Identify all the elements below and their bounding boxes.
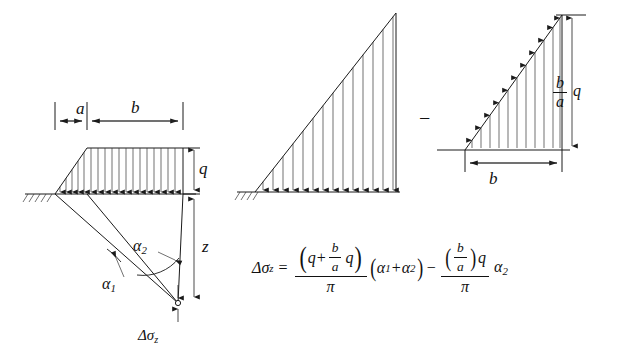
- eq-term1-q2: q: [343, 249, 353, 267]
- label-b-over-a-q: b a q: [551, 75, 581, 110]
- eq-term1-inner-fraction: b a: [329, 240, 342, 275]
- eq-trailing-alpha-sub: 2: [502, 266, 507, 278]
- eq-term1-inner-den-a: a: [329, 257, 342, 275]
- large-triangular-load-panel: [235, 13, 400, 200]
- dimension-q: [183, 148, 200, 190]
- point-o-marker: [175, 300, 180, 305]
- eq-minus-operator: −: [424, 259, 439, 277]
- label-delta-sigma-z: Δσz: [138, 328, 158, 345]
- ground-hatch-middle: [235, 192, 258, 200]
- eq-term2-inner-num-b: b: [454, 240, 467, 257]
- eq-term2-open-paren: (: [445, 250, 451, 265]
- z-subscript-label: z: [154, 334, 158, 345]
- dimension-b-right: [465, 150, 562, 172]
- label-depth-z: z: [202, 238, 209, 255]
- eq-alpha1-glyph: α: [377, 259, 385, 277]
- eq-term1-open-paren: (: [299, 248, 306, 267]
- eq-alpha2-glyph: α: [402, 259, 410, 277]
- small-triangle-outline: [465, 15, 562, 150]
- eq-term1-denominator-pi: π: [295, 276, 367, 296]
- eq-term2-close-paren: ): [470, 250, 476, 265]
- minus-operator-symbol: −: [419, 108, 430, 128]
- label-dim-b: b: [131, 99, 140, 116]
- eq-term2-denominator-pi: π: [441, 276, 489, 296]
- eq-alpha-plus: +: [391, 259, 402, 277]
- dimension-z: [183, 194, 200, 297]
- dimension-line-a-b: [55, 102, 183, 130]
- eq-term1-numerator: ( q + b a q ): [295, 240, 367, 276]
- figure-drawing: [0, 0, 619, 355]
- label-dim-b-right: b: [489, 170, 498, 187]
- large-triangle-outline: [255, 13, 396, 192]
- eq-term2-q: q: [477, 249, 486, 267]
- eq-alpha-sum-group: (α1+α2): [369, 259, 424, 277]
- eq-delta-glyph: Δ: [252, 259, 261, 277]
- stress-equation: Δσz = ( q + b a q ) π (α1+α2) − (: [252, 240, 508, 296]
- eq-term1-inner-num-b: b: [329, 240, 342, 257]
- q-glyph-right: q: [573, 82, 581, 99]
- load-arrows-trapezoid: [60, 148, 175, 192]
- eq-trailing-alpha2-group: α2: [491, 258, 508, 277]
- load-arrows-small-triangle: [472, 18, 560, 148]
- eq-term2-inner-den-a: a: [454, 257, 467, 275]
- eq-term1-close-paren: ): [355, 248, 362, 267]
- alpha1-subscript: 1: [110, 282, 115, 294]
- ground-hatch-left: [23, 194, 52, 202]
- eq-alpha-sum-open-paren: (: [370, 260, 376, 275]
- label-alpha1: α1: [102, 276, 116, 294]
- influence-rays: [55, 194, 183, 303]
- eq-term2-numerator: ( b a ) q: [441, 240, 489, 276]
- eq-term1-plus: +: [316, 249, 327, 267]
- fraction-b-over-a-right: b a: [553, 75, 567, 110]
- load-arrows-large-triangle: [263, 17, 393, 190]
- engineering-figure: a b q z α1 α2 Δσz − b a q b Δσz = ( q + …: [0, 0, 619, 355]
- label-alpha2: α2: [133, 238, 147, 256]
- eq-alpha-sum-close-paren: ): [417, 260, 423, 275]
- alpha2-subscript: 2: [141, 244, 146, 256]
- eq-term2-inner-fraction: b a: [454, 240, 467, 275]
- delta-glyph-label: Δ: [138, 327, 147, 343]
- eq-term1-fraction: ( q + b a q ) π: [295, 240, 367, 296]
- label-load-q: q: [199, 160, 208, 177]
- numerator-b: b: [553, 75, 567, 92]
- denominator-a: a: [553, 92, 567, 110]
- label-dim-a: a: [76, 100, 85, 117]
- eq-term1-q: q: [308, 249, 316, 267]
- eq-term2-fraction: ( b a ) q π: [441, 240, 489, 296]
- eq-alpha2-sub: 2: [410, 262, 415, 274]
- eq-equals-sign: =: [274, 259, 293, 277]
